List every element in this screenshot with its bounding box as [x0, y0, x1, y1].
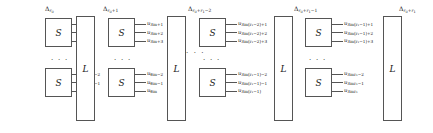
u-sub: 3m(r₁−1)−1: [241, 81, 267, 86]
output-stub-g4-bot-2: [332, 82, 343, 83]
interleaver-box-3[interactable]: L: [274, 16, 293, 121]
encoder-label: S: [55, 28, 61, 38]
output-label-g2-bot-1: u6m−2: [147, 71, 163, 76]
output-stub-g3-top-2: [226, 32, 237, 33]
output-label-g3-top-1: u3m(r₁−2)+1: [238, 21, 267, 26]
delta-subsub: 0: [301, 10, 303, 14]
interleaver-label: L: [390, 64, 396, 74]
output-stub-g3-top-3: [226, 41, 237, 42]
output-stub-g3-top-1: [226, 24, 237, 25]
output-label-g4-top-1: u3m(r₁−1)+1: [344, 21, 373, 26]
delta-suffix2: −1: [311, 8, 317, 13]
output-stub-g2-top-3: [135, 41, 146, 42]
u-sub: 3m+1: [150, 22, 163, 27]
ellipsis-group-1: · · ·: [51, 57, 69, 64]
interleaver-label: L: [174, 64, 180, 74]
delta-suffix: +r: [303, 8, 309, 13]
output-stub-g4-top-2: [332, 32, 343, 33]
output-label-g4-bot-1: u3mr₁−2: [344, 71, 364, 76]
u-sub: 3m+3: [150, 39, 163, 44]
interleaver-box-2[interactable]: L: [167, 16, 186, 121]
output-label-g3-top-3: u3m(r₁−2)+3: [238, 38, 267, 43]
output-stub-g2-bot-1: [135, 74, 146, 75]
output-stub-g2-top-1: [135, 24, 146, 25]
encoder-label: S: [315, 78, 321, 88]
delta-subsub: 0: [110, 10, 112, 14]
ellipsis-group-4: · · ·: [309, 57, 327, 64]
delta-label-group-1: Δr0: [45, 6, 54, 13]
u-sub: 3m(r₁−1)+2: [347, 31, 373, 36]
interleaver-label: L: [83, 64, 89, 74]
delta-suffix-sub: 1: [414, 10, 416, 14]
encoder-box-group-2-bottom[interactable]: S: [108, 68, 135, 97]
output-label-g3-top-2: u3m(r₁−2)+2: [238, 30, 267, 35]
delta-label-group-2: Δr0+1: [103, 6, 118, 13]
output-label-g4-bot-2: u3mr₁−1: [344, 80, 364, 85]
output-label-g2-top-1: u3m+1: [147, 21, 163, 26]
output-label-g3-bot-3: u3m(r₁−1): [238, 88, 261, 93]
output-stub-g4-top-3: [332, 41, 343, 42]
output-stub-g4-bot-1: [332, 74, 343, 75]
interleaver-box-4[interactable]: L: [383, 16, 402, 121]
encoder-label: S: [118, 78, 124, 88]
encoder-box-group-1-bottom[interactable]: S: [45, 68, 72, 97]
u-sub: 3m(r₁−2)+1: [241, 22, 267, 27]
output-stub-g3-bot-2: [226, 82, 237, 83]
u-sub: 3mr₁−2: [347, 72, 364, 77]
figure-canvas: Δr0 S u1 u2 u3 · · · S u3m−2 u3m−1 u3m L…: [0, 0, 433, 133]
u-sub: 6m: [150, 89, 157, 94]
u-sub: 3m(r₁−1)+1: [347, 22, 373, 27]
encoder-label: S: [55, 78, 61, 88]
encoder-label: S: [118, 28, 124, 38]
output-label-g3-bot-1: u3m(r₁−1)−2: [238, 71, 267, 76]
output-stub-g3-bot-3: [226, 91, 237, 92]
output-stub-g2-top-2: [135, 32, 146, 33]
delta-suffix: +1: [112, 8, 118, 13]
delta-subsub: 0: [52, 10, 54, 14]
u-sub: 6m−2: [150, 72, 163, 77]
ellipsis-group-2: · · ·: [114, 57, 132, 64]
encoder-box-group-4-bottom[interactable]: S: [305, 68, 332, 97]
output-stub-g3-bot-1: [226, 74, 237, 75]
delta-label-group-4: Δr0+r1−1: [294, 6, 317, 13]
delta-suffix2: −2: [205, 8, 211, 13]
encoder-box-group-2-top[interactable]: S: [108, 18, 135, 47]
output-label-g2-bot-2: u6m−1: [147, 80, 163, 85]
output-label-g4-bot-3: u3mr₁: [344, 88, 358, 93]
delta-label-final: Δr0+r1: [399, 6, 416, 13]
output-label-g4-top-3: u3m(r₁−1)+3: [344, 38, 373, 43]
delta-suffix: +r: [197, 8, 203, 13]
encoder-label: S: [209, 78, 215, 88]
output-label-g2-top-2: u3m+2: [147, 30, 163, 35]
delta-subsub: 0: [195, 10, 197, 14]
encoder-box-group-4-top[interactable]: S: [305, 18, 332, 47]
delta-suffix-sub: 1: [203, 10, 205, 14]
u-sub: 3m+2: [150, 31, 163, 36]
delta-suffix: +r: [408, 8, 414, 13]
delta-label-group-3: Δr0+r1−2: [188, 6, 211, 13]
interleaver-box-1[interactable]: L: [76, 16, 95, 121]
u-sub: 3mr₁: [347, 89, 357, 94]
encoder-label: S: [209, 28, 215, 38]
u-sub: 3m(r₁−1)+3: [347, 39, 373, 44]
u-sub: 3mr₁−1: [347, 81, 364, 86]
delta-subsub: 0: [406, 10, 408, 14]
output-label-g2-top-3: u3m+3: [147, 38, 163, 43]
output-stub-g2-bot-2: [135, 82, 146, 83]
output-label-g2-bot-3: u6m: [147, 88, 157, 93]
output-stub-g4-bot-3: [332, 91, 343, 92]
u-sub: 3m(r₁−2)+3: [241, 39, 267, 44]
delta-suffix-sub: 1: [309, 10, 311, 14]
ellipsis-group-3: · · ·: [203, 57, 221, 64]
interleaver-label: L: [281, 64, 287, 74]
encoder-box-group-3-top[interactable]: S: [199, 18, 226, 47]
output-stub-g2-bot-3: [135, 91, 146, 92]
encoder-box-group-3-bottom[interactable]: S: [199, 68, 226, 97]
encoder-box-group-1-top[interactable]: S: [45, 18, 72, 47]
u-sub: 3m(r₁−2)+2: [241, 31, 267, 36]
output-label-g4-top-2: u3m(r₁−1)+2: [344, 30, 373, 35]
u-sub: 3m(r₁−1): [241, 89, 261, 94]
output-label-g3-bot-2: u3m(r₁−1)−1: [238, 80, 267, 85]
u-sub: 6m−1: [150, 81, 163, 86]
encoder-label: S: [315, 28, 321, 38]
